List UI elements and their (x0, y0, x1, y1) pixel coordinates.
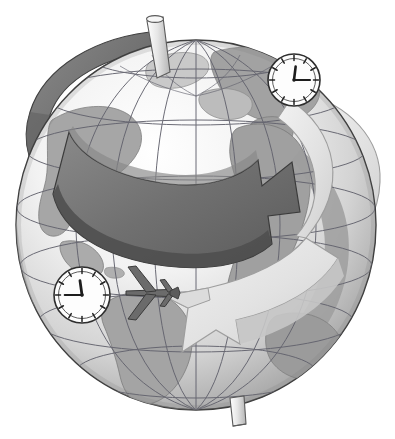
clock-top-right (268, 54, 320, 106)
clock-bottom-left-hub (80, 293, 84, 297)
clock-top-right-hub (292, 78, 295, 81)
globe-illustration-svg (0, 0, 395, 439)
illustration-canvas: World time zones globe with rotation arr… (0, 0, 395, 439)
clock-bottom-left (54, 267, 110, 323)
south-pole-axis-pin (230, 396, 246, 426)
clock-top-right-hour-hand (294, 67, 296, 80)
